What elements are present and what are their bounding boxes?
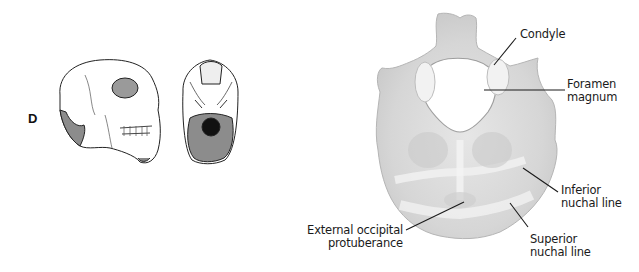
skull-lateral-view: [60, 60, 160, 163]
label-line: nuchal line: [561, 197, 622, 210]
label-external-occipital-protuberance: External occipital protuberance: [300, 224, 403, 250]
label-line: magnum: [567, 91, 617, 104]
label-line: protuberance: [300, 237, 403, 250]
label-line: nuchal line: [530, 246, 591, 259]
occipital-bone-illustration: [376, 13, 557, 238]
skull-inferior-view: [183, 60, 238, 164]
label-foramen-magnum: Foramen magnum: [567, 78, 617, 104]
label-inferior-nuchal-line: Inferior nuchal line: [561, 184, 622, 210]
label-line: Condyle: [520, 27, 565, 41]
label-condyle: Condyle: [520, 28, 565, 41]
leader-line-condyle: [494, 38, 516, 65]
label-superior-nuchal-line: Superior nuchal line: [530, 233, 591, 259]
